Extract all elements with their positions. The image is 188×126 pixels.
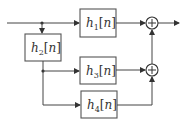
summer-sum2 [146, 64, 158, 76]
block-h4: h4[n] [81, 91, 117, 118]
svg-text:h4[n]: h4[n] [87, 98, 117, 114]
block-diagram: h1[n] h2[n] h3[n] h4[n] [0, 0, 188, 126]
block-h2: h2[n] [25, 34, 61, 61]
svg-text:h1[n]: h1[n] [86, 16, 116, 32]
block-h3: h3[n] [80, 57, 116, 84]
block-h1: h1[n] [80, 9, 116, 37]
svg-text:h2[n]: h2[n] [31, 41, 61, 57]
summer-sum1 [146, 17, 158, 29]
h4-to-sum2-wire [117, 77, 152, 105]
svg-text:h3[n]: h3[n] [86, 64, 116, 80]
